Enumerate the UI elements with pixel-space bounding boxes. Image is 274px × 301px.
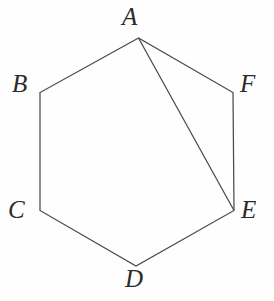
vertex-label-a: A xyxy=(122,4,137,29)
geometry-figure: A B C D E F xyxy=(0,0,274,301)
diagonal-a-to-e xyxy=(139,38,235,211)
vertex-label-e: E xyxy=(241,197,256,222)
vertex-label-f: F xyxy=(240,71,255,96)
vertex-label-c: C xyxy=(8,197,25,222)
hexagon-outline xyxy=(40,38,234,266)
vertex-label-d: D xyxy=(125,266,143,291)
hexagon-drawing-canvas xyxy=(0,0,274,301)
vertex-label-b: B xyxy=(12,71,27,96)
